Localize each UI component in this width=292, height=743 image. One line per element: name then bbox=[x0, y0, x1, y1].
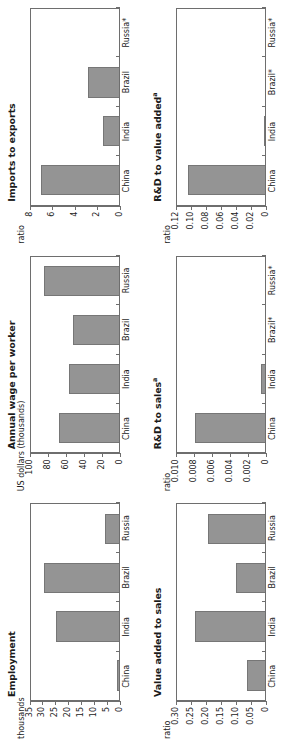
y-tick-mark bbox=[107, 701, 108, 705]
x-tick-mark bbox=[116, 552, 120, 553]
x-axis-ticks-imports-to-exports bbox=[116, 8, 120, 206]
y-tick-mark bbox=[251, 206, 252, 210]
y-tick-label: 0.12 bbox=[171, 212, 181, 230]
y-axis-line bbox=[30, 453, 120, 454]
y-axis-imports-to-exports: 02468 bbox=[30, 206, 120, 248]
x-tick-mark bbox=[262, 205, 266, 206]
x-axis-category-labels-employment: ChinaIndiaBrazilRussia bbox=[122, 503, 142, 701]
x-category-label: Brazil* bbox=[268, 57, 288, 106]
y-tick-mark bbox=[176, 206, 177, 210]
bar-slot-russia bbox=[177, 257, 266, 306]
bar-slot-russia bbox=[31, 9, 120, 58]
y-tick-label: 100 bbox=[25, 459, 35, 474]
y-tick-label: 0 bbox=[115, 707, 125, 712]
panel-imports-to-exports: Imports to exportsratio02468ChinaIndiaBr… bbox=[0, 0, 146, 248]
x-tick-mark bbox=[116, 452, 120, 453]
y-tick-label: 0.002 bbox=[243, 459, 253, 482]
plot-area-imports-to-exports bbox=[30, 8, 120, 206]
y-tick-mark bbox=[236, 206, 237, 210]
plot-area-rd-to-sales bbox=[176, 256, 266, 454]
y-tick-mark bbox=[30, 206, 31, 210]
y-tick-mark bbox=[120, 206, 121, 210]
x-axis-ticks-rd-to-sales bbox=[262, 256, 266, 454]
y-tick-label: 60 bbox=[61, 459, 71, 469]
y-tick-label: 0.20 bbox=[201, 707, 211, 725]
x-axis-category-labels-imports-to-exports: ChinaIndiaBrazilRussia* bbox=[122, 8, 142, 206]
y-tick-label: 0 bbox=[115, 459, 125, 464]
x-category-label: India bbox=[122, 602, 142, 651]
y-tick-mark bbox=[236, 701, 237, 705]
x-category-label: Russia bbox=[268, 503, 288, 552]
y-tick-mark bbox=[191, 206, 192, 210]
y-tick-label: 4 bbox=[70, 212, 80, 217]
y-tick-mark bbox=[176, 701, 177, 705]
y-tick-label: 0 bbox=[261, 707, 271, 712]
y-tick-mark bbox=[42, 701, 43, 705]
y-tick-label: 30 bbox=[37, 707, 47, 717]
bar-slot-china bbox=[31, 403, 120, 452]
panel-title-rd-to-value-added: R&D to value addeda bbox=[152, 4, 164, 202]
y-tick-label: 10 bbox=[89, 707, 99, 717]
bar-slot-india bbox=[31, 107, 120, 156]
y-tick-label: 0.25 bbox=[186, 707, 196, 725]
x-tick-mark bbox=[262, 651, 266, 652]
x-category-label: Russia bbox=[122, 256, 142, 305]
x-axis-category-labels-rd-to-value-added: ChinaIndiaBrazil*Russia* bbox=[268, 8, 288, 206]
bar-india bbox=[69, 364, 120, 394]
x-tick-mark bbox=[116, 7, 120, 8]
plot-frame bbox=[30, 503, 120, 701]
y-tick-label: 8 bbox=[25, 212, 35, 217]
y-tick-mark bbox=[30, 453, 31, 457]
x-category-label: China bbox=[268, 156, 288, 205]
x-axis-ticks-rd-to-value-added bbox=[262, 8, 266, 206]
bar-slot-china bbox=[177, 156, 266, 205]
y-axis-unit-label-employment: thousands bbox=[17, 697, 26, 739]
y-tick-mark bbox=[230, 453, 231, 457]
y-tick-label: 35 bbox=[25, 707, 35, 717]
y-axis-annual-wage-per-worker: 020406080100 bbox=[30, 453, 120, 495]
bar-russia bbox=[208, 514, 266, 544]
bar-slot-india bbox=[177, 355, 266, 404]
multi-panel-bar-chart-figure: Employmentthousands05101520253035ChinaIn… bbox=[0, 0, 292, 743]
y-tick-label: 0.006 bbox=[207, 459, 217, 482]
y-axis-employment: 05101520253035 bbox=[30, 701, 120, 743]
y-tick-label: 0 bbox=[115, 212, 125, 217]
y-axis-unit-label-imports-to-exports: ratio bbox=[17, 225, 26, 243]
y-tick-label: 0.02 bbox=[246, 212, 256, 230]
panel-title-footnote-marker: a bbox=[151, 378, 159, 382]
bar-china bbox=[41, 165, 120, 195]
y-tick-label: 15 bbox=[76, 707, 86, 717]
y-tick-label: 0.06 bbox=[216, 212, 226, 230]
y-tick-mark bbox=[212, 453, 213, 457]
y-tick-label: 0 bbox=[261, 212, 271, 217]
panel-title-text: Value added to sales bbox=[152, 588, 163, 697]
panel-rd-to-sales: R&D to salesaratio00.0020.0040.0060.0080… bbox=[146, 248, 292, 496]
x-tick-mark bbox=[262, 552, 266, 553]
y-tick-label: 0.15 bbox=[216, 707, 226, 725]
x-category-label: China bbox=[122, 652, 142, 701]
y-tick-label: 0.10 bbox=[186, 212, 196, 230]
panel-title-rd-to-sales: R&D to salesa bbox=[152, 252, 164, 450]
x-tick-mark bbox=[262, 7, 266, 8]
plot-area-rd-to-value-added bbox=[176, 8, 266, 206]
bar-slot-brazil bbox=[31, 553, 120, 602]
bar-slot-brazil bbox=[177, 553, 266, 602]
y-tick-mark bbox=[221, 206, 222, 210]
bar-slot-brazil bbox=[31, 58, 120, 107]
bar-slot-russia bbox=[177, 504, 266, 553]
panel-title-footnote-marker: a bbox=[151, 92, 159, 96]
panel-title-text: R&D to value added bbox=[152, 97, 163, 202]
x-tick-mark bbox=[262, 700, 266, 701]
x-category-label: Brazil bbox=[122, 57, 142, 106]
bar-slot-russia bbox=[31, 504, 120, 553]
y-tick-label: 20 bbox=[97, 459, 107, 469]
bar-slot-china bbox=[31, 156, 120, 205]
x-tick-mark bbox=[262, 56, 266, 57]
x-tick-mark bbox=[116, 502, 120, 503]
panel-value-added-to-sales: Value added to salesratio00.050.100.150.… bbox=[146, 495, 292, 743]
x-tick-mark bbox=[116, 700, 120, 701]
bar-series bbox=[177, 9, 266, 205]
x-tick-mark bbox=[262, 255, 266, 256]
x-category-label: Brazil bbox=[122, 553, 142, 602]
y-tick-label: 0.008 bbox=[189, 459, 199, 482]
